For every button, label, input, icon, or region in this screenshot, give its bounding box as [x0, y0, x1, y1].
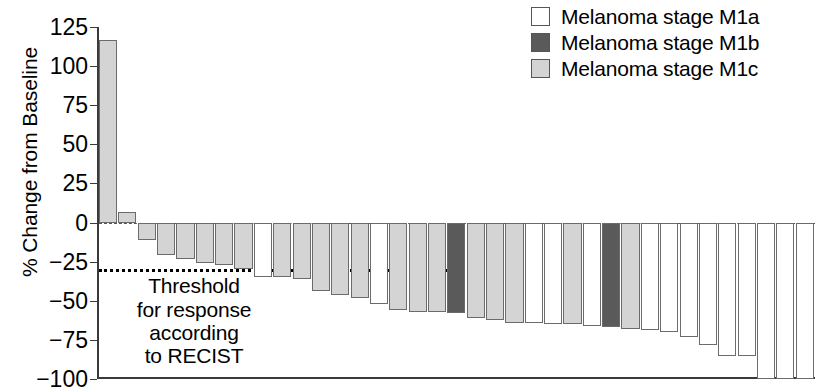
bar	[718, 223, 736, 356]
y-axis-tick-label: −100	[18, 368, 88, 391]
bar	[293, 223, 311, 279]
bar	[99, 40, 117, 223]
bar	[525, 223, 543, 323]
bar	[699, 223, 717, 345]
legend-item-label: Melanoma stage M1c	[561, 58, 758, 79]
legend: Melanoma stage M1aMelanoma stage M1bMela…	[531, 4, 759, 80]
y-axis-tick-label: 75	[18, 94, 88, 117]
bar	[273, 223, 291, 278]
legend-item-m1b: Melanoma stage M1b	[531, 30, 759, 54]
bar	[351, 223, 369, 298]
y-axis-tick-mark	[90, 183, 97, 184]
bar	[660, 223, 678, 333]
bar	[583, 223, 601, 326]
recist-threshold-note-line: Threshold	[103, 274, 285, 297]
y-axis-tick-mark	[90, 262, 97, 263]
y-axis-tick-mark	[90, 223, 97, 224]
y-axis-tick-mark	[90, 340, 97, 341]
legend-item-label: Melanoma stage M1a	[561, 6, 759, 27]
bar	[563, 223, 581, 325]
bar	[641, 223, 659, 331]
bar	[505, 223, 523, 323]
y-axis-tick-mark	[90, 27, 97, 28]
y-axis-tick-label: 25	[18, 172, 88, 195]
bar	[157, 223, 175, 256]
recist-threshold-note-line: for response	[103, 298, 285, 321]
y-axis-tick-label: 125	[18, 16, 88, 39]
y-axis-tick-label: 0	[18, 211, 88, 234]
y-axis-tick-mark	[90, 144, 97, 145]
bar	[331, 223, 349, 295]
y-axis-tick-mark	[90, 105, 97, 106]
bar	[389, 223, 407, 311]
bar	[118, 212, 136, 223]
y-axis-tick-label: 100	[18, 55, 88, 78]
bar	[254, 223, 272, 278]
bar	[776, 223, 794, 379]
y-axis-tick-mark	[90, 379, 97, 380]
bar	[370, 223, 388, 304]
bar	[312, 223, 330, 292]
bar	[447, 223, 465, 314]
y-axis-tick-labels: 1251007550250−25−50−75−100	[18, 0, 88, 392]
bar	[138, 223, 156, 240]
legend-item-label: Melanoma stage M1b	[561, 32, 759, 53]
bar	[409, 223, 427, 312]
bar	[176, 223, 194, 259]
y-axis-tick-label: 50	[18, 133, 88, 156]
recist-threshold-note: Thresholdfor responseaccordingto RECIST	[103, 274, 285, 366]
y-axis-tick-label: −50	[18, 289, 88, 312]
bar	[428, 223, 446, 312]
legend-swatch-icon	[531, 7, 550, 26]
bar	[467, 223, 485, 318]
bar	[196, 223, 214, 264]
y-axis-tick-label: −25	[18, 250, 88, 273]
bar	[757, 223, 775, 379]
y-axis-tick-mark	[90, 301, 97, 302]
bar	[486, 223, 504, 320]
bar	[215, 223, 233, 265]
bar	[602, 223, 620, 328]
legend-swatch-icon	[531, 59, 550, 78]
bar	[621, 223, 639, 329]
legend-swatch-icon	[531, 33, 550, 52]
bar	[234, 223, 252, 270]
bar	[738, 223, 756, 356]
legend-item-m1a: Melanoma stage M1a	[531, 4, 759, 28]
bar	[544, 223, 562, 325]
bar	[680, 223, 698, 337]
y-axis-tick-label: −75	[18, 328, 88, 351]
bar	[796, 223, 814, 379]
waterfall-chart-figure: % Change from Baseline 1251007550250−25−…	[0, 0, 820, 392]
legend-item-m1c: Melanoma stage M1c	[531, 56, 759, 80]
recist-threshold-note-line: according	[103, 321, 285, 344]
y-axis-tick-mark	[90, 66, 97, 67]
recist-threshold-note-line: to RECIST	[103, 344, 285, 367]
